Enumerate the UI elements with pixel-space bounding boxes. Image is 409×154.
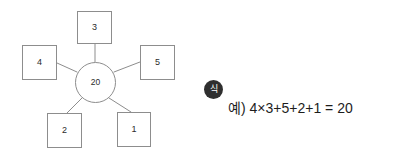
radial-number-diagram: 3 4 5 2 1 20 — [0, 0, 205, 154]
node-box-left: 4 — [22, 45, 57, 80]
answer-section: 식 예) 4×3+5+2+1 = 20 — [200, 70, 409, 130]
node-box-right: 5 — [140, 45, 175, 80]
connector-left — [57, 63, 77, 72]
node-value-bottom-right: 1 — [131, 125, 136, 134]
node-box-top: 3 — [77, 11, 112, 44]
center-node-circle: 20 — [75, 62, 116, 103]
equation-text: 예) 4×3+5+2+1 = 20 — [228, 101, 353, 116]
node-value-right: 5 — [155, 58, 160, 67]
connector-right — [114, 62, 140, 72]
worksheet-figure: 3 4 5 2 1 20 식 예) 4×3+5+2+1 = 20 — [0, 0, 409, 154]
connector-bottom-left — [67, 98, 82, 113]
node-box-bottom-left: 2 — [47, 113, 82, 148]
node-value-bottom-left: 2 — [62, 126, 67, 135]
equation-badge-label: 식 — [210, 85, 218, 94]
node-value-left: 4 — [37, 58, 42, 67]
equation-badge-icon: 식 — [204, 80, 223, 99]
node-box-bottom-right: 1 — [117, 112, 151, 147]
connector-bottom-right — [109, 98, 131, 112]
node-value-top: 3 — [92, 23, 97, 32]
center-node-value: 20 — [91, 78, 100, 87]
